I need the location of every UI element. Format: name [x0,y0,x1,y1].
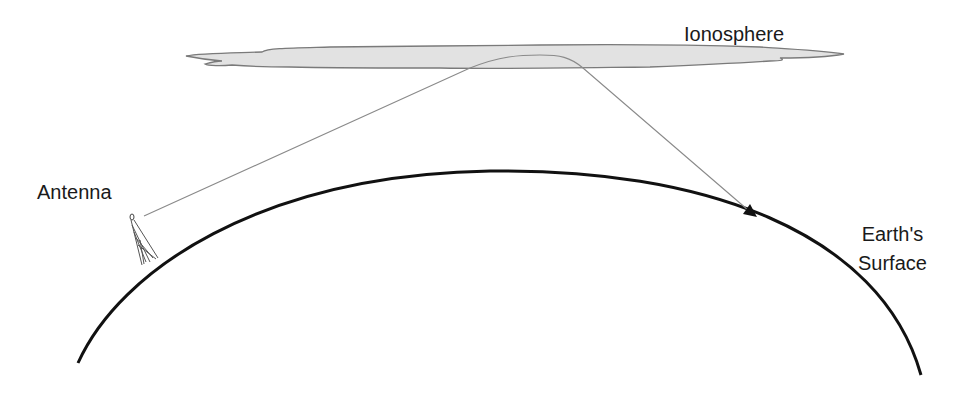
radio-ray-path [144,55,748,216]
ionosphere-label: Ionosphere [684,22,784,46]
antenna-label: Antenna [37,180,112,204]
earth-surface-label: Earth's Surface [858,220,927,278]
earth-surface-label-line2: Surface [858,249,927,278]
earth-surface-label-line1: Earth's [858,220,927,249]
skywave-diagram [0,0,969,399]
antenna-tower-icon [130,214,158,265]
earth-surface-arc [78,171,921,375]
